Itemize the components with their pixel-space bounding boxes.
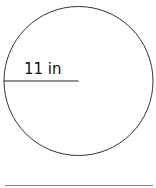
circle-diagram: 11 in <box>0 0 156 188</box>
radius-label: 11 in <box>24 60 62 78</box>
